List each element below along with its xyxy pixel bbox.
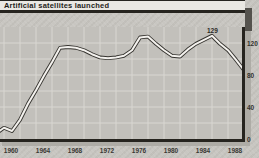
satellite-line-outline: [0, 36, 244, 134]
line-chart: [0, 27, 244, 139]
plot-area: [0, 27, 244, 139]
x-tick-label: 1968: [62, 147, 88, 155]
y-tick-label: 40: [247, 104, 259, 111]
chart-title: Artificial satellites launched: [4, 2, 109, 10]
bottom-shadow-band: [2, 141, 250, 146]
y-tick-label: 120: [247, 40, 259, 47]
chart-title-bar: Artificial satellites launched: [0, 0, 245, 13]
chart-frame: Artificial satellites launched 129 04080…: [0, 0, 259, 158]
satellite-line: [0, 36, 244, 134]
title-bar-shadow: [245, 8, 252, 31]
right-shadow-band: [245, 31, 251, 141]
x-tick-label: 1972: [94, 147, 120, 155]
x-tick-label: 1988: [222, 147, 248, 155]
gridlines: [0, 27, 244, 139]
y-tick-label: 80: [247, 72, 259, 79]
y-axis-line: [242, 27, 245, 141]
x-tick-label: 1976: [126, 147, 152, 155]
x-tick-label: 1964: [30, 147, 56, 155]
peak-value-annotation: 129: [207, 27, 218, 35]
x-tick-label: 1960: [0, 147, 24, 155]
x-axis-line: [0, 139, 245, 142]
x-tick-label: 1980: [158, 147, 184, 155]
x-tick-label: 1984: [190, 147, 216, 155]
y-tick-label: 0: [247, 136, 259, 143]
